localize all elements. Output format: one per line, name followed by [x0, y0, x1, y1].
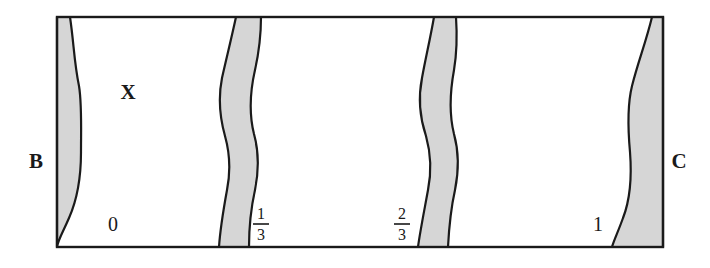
tick-2-3-denominator: 3: [398, 226, 406, 243]
figure-container: XBC013231: [0, 0, 710, 268]
rectangle-interior: [57, 17, 663, 247]
tick-0: 0: [108, 213, 118, 235]
foliated-rectangle-figure: XBC013231: [0, 0, 710, 268]
tick-1: 1: [593, 213, 603, 235]
tick-1-3-numerator: 1: [257, 205, 265, 222]
tick-1-3-denominator: 3: [257, 226, 265, 243]
region-label-x: X: [120, 80, 135, 104]
tick-2-3-numerator: 2: [398, 205, 406, 222]
side-label-c: C: [671, 149, 686, 173]
side-label-b: B: [29, 149, 43, 173]
